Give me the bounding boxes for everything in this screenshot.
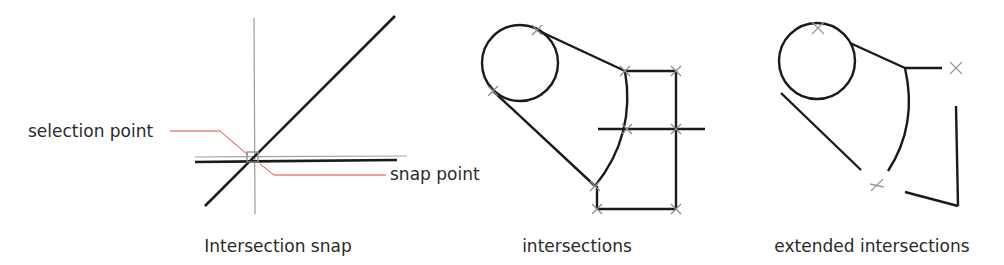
upper-segment [850, 43, 905, 68]
snap-point-label: snap point [390, 166, 480, 183]
caption-intersection-snap: Intersection snap [204, 238, 351, 255]
x-marker-icon [488, 86, 498, 96]
tangent-line-top [537, 30, 625, 71]
selection-point-leader [170, 131, 248, 155]
vertical-construction-line [254, 18, 255, 214]
panel-intersections [482, 25, 705, 209]
selection-point-label: selection point [28, 123, 153, 140]
caption-intersections: intersections [522, 238, 632, 255]
panel-extended-intersections [779, 23, 958, 206]
horizontal-line [195, 160, 397, 162]
bottom-segment [905, 192, 958, 206]
x-marker-icon [950, 62, 962, 74]
extended-intersection-markers [812, 22, 962, 191]
panel-intersection-snap [170, 16, 407, 214]
arc [888, 68, 909, 171]
tangent-line-bottom [493, 91, 595, 186]
horizontal-construction-line [195, 156, 407, 157]
diagonal-line [205, 16, 395, 206]
plus-marker-icon [870, 179, 884, 191]
circle [779, 23, 855, 99]
vertical-segment [956, 106, 958, 206]
tangent-line-bottom [781, 93, 861, 170]
caption-extended-intersections: extended intersections [774, 238, 969, 255]
x-marker-icon [590, 181, 600, 191]
circle [482, 25, 558, 101]
snap-point-leader [260, 164, 386, 175]
